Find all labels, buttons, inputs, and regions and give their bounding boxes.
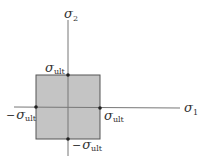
- sigma1-axis-label: σ1: [184, 100, 198, 117]
- point-bottom: [66, 137, 70, 141]
- point-top: [66, 73, 70, 77]
- label-right-sigma-ult: σult: [104, 108, 125, 124]
- label-top-sigma-ult: σult: [45, 60, 66, 76]
- point-left: [34, 105, 38, 109]
- label-left-neg-sigma-ult: −σult: [6, 107, 37, 123]
- sigma2-axis-label: σ2: [64, 6, 78, 23]
- point-right: [98, 106, 102, 110]
- failure-envelope-diagram: σ2 σ1 σult σult −σult −σult: [0, 0, 206, 165]
